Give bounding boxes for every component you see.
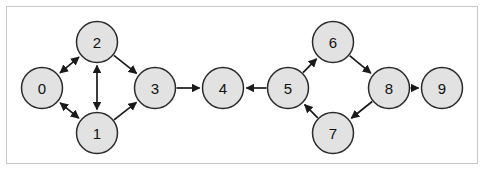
graph-node-2: 2 <box>77 22 118 63</box>
graph-edge-8-7 <box>351 101 372 118</box>
node-layer: 0123456789 <box>22 22 463 154</box>
node-circle-4 <box>203 68 244 109</box>
node-circle-8 <box>369 68 410 109</box>
graph-edge-5-6 <box>303 59 317 73</box>
graph-edge-6-8 <box>350 56 371 73</box>
graph-node-0: 0 <box>22 68 63 109</box>
graph-node-6: 6 <box>313 22 354 63</box>
graph-node-3: 3 <box>135 68 176 109</box>
graph-edge-7-5 <box>305 105 318 118</box>
node-circle-0 <box>22 68 63 109</box>
graph-edge-0-1 <box>60 103 79 118</box>
graph-node-5: 5 <box>268 68 309 109</box>
graph-canvas: 0123456789 <box>0 0 485 172</box>
graph-node-9: 9 <box>422 68 463 109</box>
node-circle-5 <box>268 68 309 109</box>
graph-edge-1-3 <box>114 102 136 119</box>
graph-figure: 0123456789 <box>0 0 485 172</box>
graph-node-1: 1 <box>77 113 118 154</box>
node-circle-7 <box>313 113 354 154</box>
graph-node-4: 4 <box>203 68 244 109</box>
graph-edge-0-2 <box>60 57 79 73</box>
node-circle-1 <box>77 113 118 154</box>
graph-edge-2-3 <box>114 55 137 73</box>
graph-node-8: 8 <box>369 68 410 109</box>
node-circle-2 <box>77 22 118 63</box>
node-circle-6 <box>313 22 354 63</box>
node-circle-9 <box>422 68 463 109</box>
node-circle-3 <box>135 68 176 109</box>
graph-node-7: 7 <box>313 113 354 154</box>
